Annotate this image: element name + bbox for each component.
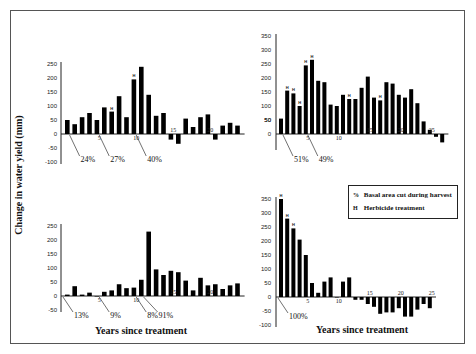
x-tick-label: 15 [170, 289, 176, 295]
bar [291, 228, 295, 297]
bar [378, 100, 382, 134]
bar [109, 112, 114, 134]
herbicide-mark: H [292, 222, 295, 227]
bar [329, 277, 333, 297]
legend: % Basal area cut during harvest H Herbic… [348, 185, 458, 219]
x-tick-label: 5 [306, 298, 309, 304]
x-tick-label: 25 [429, 127, 435, 133]
bar [366, 77, 370, 134]
bar [391, 297, 395, 312]
bar [80, 295, 85, 296]
bar [95, 120, 100, 134]
bar [117, 284, 122, 296]
y-tick-label: -50 [262, 308, 271, 314]
herbicide-mark: H [132, 73, 135, 78]
bar [409, 297, 413, 317]
bar [422, 297, 426, 304]
bar [372, 297, 376, 307]
bar [279, 119, 283, 134]
x-tick-label: 20 [398, 127, 404, 133]
annotation-leader [308, 135, 318, 156]
bar [228, 285, 233, 296]
bar [428, 297, 432, 308]
y-tick-label: 200 [47, 75, 58, 81]
percent-marker-icon: % [353, 189, 362, 202]
y-tick-label: -50 [48, 307, 57, 313]
y-tick-label: -100 [45, 159, 58, 165]
y-tick-label: 200 [261, 75, 272, 81]
x-tick-label: 10 [336, 135, 342, 141]
chart-top-left: 250200150100500-50-100HH510152024%27%40% [45, 61, 245, 165]
bar [72, 124, 77, 134]
basal-area-annotation: 24% [81, 155, 96, 164]
x-tick-label: 20 [207, 127, 213, 133]
herbicide-mark: H [286, 213, 289, 218]
y-tick-label: 200 [47, 237, 58, 243]
herbicide-marker-icon: H [353, 202, 362, 215]
annotation-leader [70, 135, 80, 156]
bar [220, 289, 225, 296]
bar [183, 281, 188, 296]
legend-item-herbicide: H Herbicide treatment [353, 202, 453, 215]
annotation-leader [283, 135, 293, 156]
bar [360, 297, 364, 300]
herbicide-mark: H [379, 94, 382, 99]
bar [139, 280, 144, 296]
bar [146, 232, 151, 296]
y-tick-label: 0 [268, 131, 272, 137]
y-tick-label: 250 [47, 61, 58, 67]
bar [65, 120, 70, 134]
bar [341, 95, 345, 134]
bar [304, 65, 308, 134]
bar [353, 297, 357, 300]
y-tick-label: 150 [47, 89, 58, 95]
bar [72, 286, 77, 296]
bar [117, 96, 122, 134]
bar [124, 288, 129, 296]
x-tick-label: 20 [207, 289, 213, 295]
bar [176, 134, 181, 144]
bar [87, 113, 92, 134]
y-tick-label: -100 [259, 322, 272, 328]
y-tick-label: 150 [261, 89, 272, 95]
y-tick-label: 250 [261, 224, 272, 230]
bar [228, 123, 233, 134]
y-tick-label: 350 [261, 196, 272, 202]
bar [285, 219, 289, 297]
y-tick-label: 250 [47, 223, 58, 229]
bar [154, 116, 159, 134]
basal-area-annotation: 51% [294, 155, 309, 164]
bar [310, 283, 314, 297]
basal-area-annotation: 40% [147, 155, 162, 164]
bar [298, 240, 302, 297]
bar [102, 107, 107, 134]
y-tick-label: 100 [261, 103, 272, 109]
y-tick-label: 350 [261, 33, 272, 39]
x-tick-label: 5 [98, 297, 101, 303]
basal-area-annotation: 91% [159, 311, 174, 320]
bar [191, 127, 196, 134]
bar [154, 269, 159, 296]
herbicide-mark: H [311, 54, 314, 59]
chart-bottom-left: 250200150100500-50510152013%9%8%91% [47, 223, 245, 320]
legend-label: Basal area cut during harvest [364, 191, 452, 199]
bar [132, 79, 137, 134]
bar [422, 121, 426, 134]
bar [161, 113, 166, 134]
bar [403, 297, 407, 317]
bar [198, 117, 203, 134]
legend-label: Herbicide treatment [364, 204, 425, 212]
bar [102, 292, 107, 296]
bar [65, 295, 70, 296]
bar [409, 89, 413, 134]
chart-canvas: 250200150100500-50-100HH510152024%27%40%… [0, 0, 476, 354]
y-tick-label: 300 [261, 47, 272, 53]
bar [161, 275, 166, 296]
annotation-leader [136, 135, 146, 156]
bar [285, 91, 289, 134]
bar [322, 282, 326, 297]
y-tick-label: 100 [261, 266, 272, 272]
bar [139, 67, 144, 134]
bar [191, 290, 196, 296]
annotation-leader [136, 297, 146, 312]
